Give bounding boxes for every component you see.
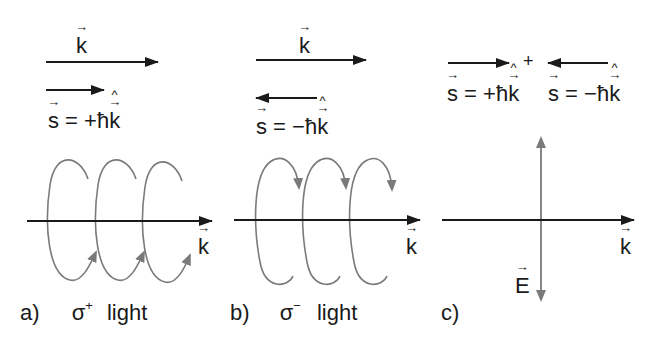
s-symbol: s	[48, 110, 59, 132]
e-symbol: E	[515, 275, 530, 297]
caption-sigma: σ	[280, 300, 294, 325]
k-symbol: k	[76, 35, 87, 57]
plus-sign: +	[523, 52, 534, 70]
axis-k-label: k	[198, 236, 209, 258]
spin-plus-equation: s = +ħk	[447, 83, 519, 105]
caption-light: light	[107, 300, 147, 325]
s-symbol: s	[447, 83, 458, 105]
s-symbol: s	[256, 116, 267, 138]
k-symbol: k	[406, 236, 417, 258]
k-vector-label: k	[76, 35, 87, 57]
helix-sigma-minus	[256, 159, 392, 285]
panel-b	[234, 60, 420, 284]
equation-mid: = −ħ	[559, 81, 609, 106]
k-hat-symbol: k	[317, 116, 328, 138]
spin-equation: s = −ħk	[256, 116, 328, 138]
spin-minus-equation: s = −ħk	[548, 83, 620, 105]
equation-mid: = −ħ	[267, 114, 317, 139]
axis-k-label: k	[406, 236, 417, 258]
s-symbol: s	[548, 83, 559, 105]
equation-mid: = +ħ	[59, 108, 109, 133]
caption-a: a) σ+ light	[20, 302, 147, 324]
k-symbol: k	[198, 236, 209, 258]
equation-mid: = +ħ	[458, 81, 508, 106]
caption-c: c)	[441, 302, 459, 324]
e-field-label: E	[515, 275, 530, 297]
diagram-canvas	[0, 0, 655, 343]
caption-b: b) σ− light	[230, 302, 357, 324]
caption-letter: b)	[230, 300, 250, 325]
spin-equation: s = +ħk	[48, 110, 120, 132]
caption-sup: +	[85, 298, 93, 313]
caption-letter: a)	[20, 300, 40, 325]
k-hat-symbol: k	[508, 83, 519, 105]
caption-sigma: σ	[72, 300, 86, 325]
k-hat-symbol: k	[109, 110, 120, 132]
k-hat-symbol: k	[609, 83, 620, 105]
caption-light: light	[317, 300, 357, 325]
k-symbol: k	[299, 35, 310, 57]
k-vector-label: k	[299, 35, 310, 57]
axis-k-label: k	[620, 236, 631, 258]
caption-sup: −	[293, 298, 301, 313]
k-symbol: k	[620, 236, 631, 258]
